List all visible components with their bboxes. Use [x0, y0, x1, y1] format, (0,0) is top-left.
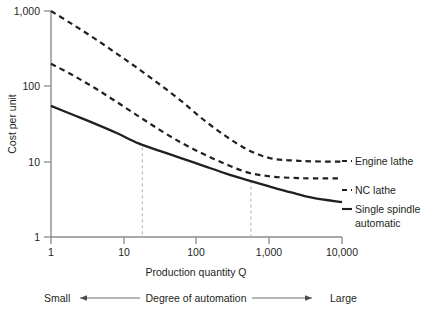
automation-left-label: Small [44, 292, 70, 304]
legend-label-single-spindle: Single spindle [355, 203, 421, 215]
curve-engine-lathe [51, 11, 342, 162]
arrow-right-icon [305, 295, 312, 301]
automation-center-label: Degree of automation [146, 292, 247, 304]
data-curves [51, 11, 342, 202]
automation-right-label: Large [330, 292, 357, 304]
x-tick-label-10000: 10,000 [326, 246, 358, 258]
x-tick-label-1: 1 [48, 246, 54, 258]
y-tick-label-1000: 1,000 [14, 5, 40, 17]
breakeven-guides [142, 147, 251, 237]
x-tick-label-1000: 1,000 [256, 246, 282, 258]
x-axis-title: Production quantity Q [146, 266, 247, 278]
arrow-left-icon [80, 295, 87, 301]
legend-label-nc-lathe: NC lathe [355, 184, 396, 196]
y-axis-title: Cost per unit [6, 94, 18, 154]
curve-single-spindle-automatic [51, 106, 342, 202]
cost-per-unit-chart: 1,000 100 10 1 Cost per unit 1 10 100 1,… [0, 0, 427, 324]
legend-connectors [342, 161, 352, 209]
automation-scale: Small Degree of automation Large [44, 292, 357, 304]
y-tick-label-100: 100 [22, 80, 40, 92]
legend-label-engine-lathe: Engine lathe [355, 155, 414, 167]
chart-svg: 1,000 100 10 1 Cost per unit 1 10 100 1,… [0, 0, 427, 324]
legend-label-single-spindle-line2: automatic [355, 217, 401, 229]
y-axis-ticks [44, 11, 51, 237]
y-tick-label-10: 10 [28, 156, 40, 168]
y-tick-label-1: 1 [34, 231, 40, 243]
x-axis-ticks [51, 237, 342, 244]
x-tick-label-100: 100 [187, 246, 205, 258]
x-tick-label-10: 10 [118, 246, 130, 258]
